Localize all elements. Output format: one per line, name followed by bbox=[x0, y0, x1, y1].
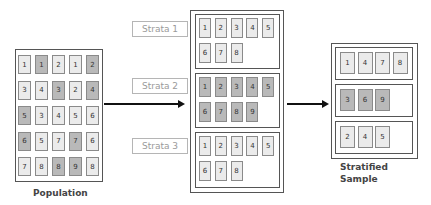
item-cell: 3 bbox=[18, 81, 31, 100]
item-cell: 8 bbox=[231, 102, 243, 122]
sample-group-1: 1478 bbox=[335, 47, 413, 80]
item-cell: 4 bbox=[246, 18, 258, 38]
item-cell: 9 bbox=[246, 102, 258, 122]
item-cell: 3 bbox=[52, 81, 65, 100]
item-cell: 4 bbox=[358, 126, 373, 148]
item-cell: 3 bbox=[340, 89, 355, 111]
item-cell: 5 bbox=[262, 136, 274, 156]
item-cell: 6 bbox=[86, 132, 99, 151]
item-cell: 2 bbox=[52, 55, 65, 74]
item-cell: 9 bbox=[69, 157, 82, 176]
item-cell: 7 bbox=[215, 102, 227, 122]
item-cell: 7 bbox=[52, 132, 65, 151]
item-cell: 5 bbox=[262, 77, 274, 97]
item-cell: 7 bbox=[375, 52, 390, 74]
item-cell: 8 bbox=[35, 157, 48, 176]
arrow-line bbox=[104, 103, 179, 105]
item-cell: 4 bbox=[358, 52, 373, 74]
item-cell: 2 bbox=[340, 126, 355, 148]
item-cell: 8 bbox=[231, 161, 243, 181]
item-cell: 1 bbox=[199, 136, 211, 156]
item-cell: 7 bbox=[69, 132, 82, 151]
item-cell: 1 bbox=[340, 52, 355, 74]
item-cell: 3 bbox=[231, 136, 243, 156]
item-cell: 1 bbox=[199, 18, 211, 38]
strata-label-2: Strata 2 bbox=[132, 78, 188, 94]
item-cell: 6 bbox=[358, 89, 373, 111]
item-cell: 6 bbox=[199, 102, 211, 122]
item-cell: 5 bbox=[262, 18, 274, 38]
item-cell: 2 bbox=[69, 81, 82, 100]
arrow-head-icon bbox=[322, 100, 329, 108]
item-cell: 3 bbox=[231, 77, 243, 97]
population-box: 1121234324534566577678898 bbox=[15, 49, 103, 182]
sample-group-3: 245 bbox=[335, 121, 413, 154]
strata-label-1: Strata 1 bbox=[132, 21, 188, 37]
item-cell: 6 bbox=[199, 43, 211, 63]
item-cell: 2 bbox=[86, 55, 99, 74]
item-cell: 6 bbox=[18, 132, 31, 151]
item-cell: 8 bbox=[86, 157, 99, 176]
item-cell: 1 bbox=[18, 55, 31, 74]
item-cell: 2 bbox=[215, 18, 227, 38]
item-cell: 6 bbox=[199, 161, 211, 181]
item-cell: 9 bbox=[375, 89, 390, 111]
item-cell: 4 bbox=[35, 81, 48, 100]
strata-box-2: 123456789 bbox=[195, 73, 280, 128]
item-cell: 8 bbox=[393, 52, 408, 74]
item-cell: 4 bbox=[52, 106, 65, 125]
item-cell: 5 bbox=[35, 132, 48, 151]
item-cell: 2 bbox=[215, 77, 227, 97]
population-caption: Population bbox=[33, 187, 88, 199]
item-cell: 7 bbox=[215, 161, 227, 181]
item-cell: 2 bbox=[215, 136, 227, 156]
item-cell: 1 bbox=[69, 55, 82, 74]
item-cell: 4 bbox=[246, 136, 258, 156]
item-cell: 3 bbox=[231, 18, 243, 38]
item-cell: 1 bbox=[199, 77, 211, 97]
strata-box-3: 12345678 bbox=[195, 132, 280, 188]
item-cell: 8 bbox=[52, 157, 65, 176]
item-cell: 7 bbox=[215, 43, 227, 63]
item-cell: 3 bbox=[35, 106, 48, 125]
sample-caption-line1: Stratified bbox=[340, 161, 388, 173]
arrow-line bbox=[287, 103, 323, 105]
item-cell: 7 bbox=[18, 157, 31, 176]
item-cell: 4 bbox=[86, 81, 99, 100]
sample-caption-line2: Sample bbox=[340, 173, 378, 185]
strata-label-3: Strata 3 bbox=[132, 138, 188, 154]
sample-group-2: 369 bbox=[335, 84, 413, 117]
item-cell: 4 bbox=[246, 77, 258, 97]
item-cell: 5 bbox=[375, 126, 390, 148]
item-cell: 6 bbox=[86, 106, 99, 125]
item-cell: 1 bbox=[35, 55, 48, 74]
item-cell: 8 bbox=[231, 43, 243, 63]
item-cell: 5 bbox=[18, 106, 31, 125]
arrow-head-icon bbox=[178, 100, 185, 108]
strata-box-1: 12345678 bbox=[195, 14, 280, 69]
item-cell: 5 bbox=[69, 106, 82, 125]
